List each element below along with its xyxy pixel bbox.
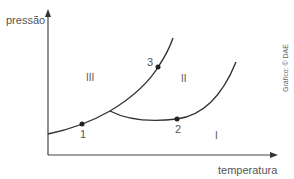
credit-label: Gráfico: © DAE	[282, 44, 289, 92]
point-1	[80, 122, 85, 127]
region-I-label: I	[215, 131, 218, 141]
region-III-label: III	[86, 73, 94, 83]
point-1-label: 1	[80, 129, 86, 140]
y-axis-arrow-icon	[45, 9, 51, 17]
branch-curve	[110, 62, 236, 120]
phase-diagram	[0, 0, 294, 179]
point-3	[156, 65, 161, 70]
x-axis-label: temperatura	[218, 165, 277, 176]
coexistence-curve	[48, 38, 173, 134]
point-2-label: 2	[175, 124, 181, 135]
point-3-label: 3	[147, 57, 153, 68]
x-axis-arrow-icon	[270, 152, 278, 158]
region-II-label: II	[181, 74, 187, 84]
y-axis-label: pressão	[6, 15, 45, 26]
point-2	[175, 117, 180, 122]
